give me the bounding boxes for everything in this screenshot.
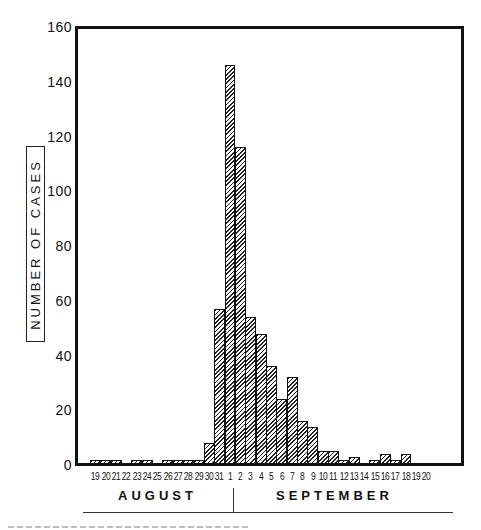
x-tick-label: 21 (111, 471, 121, 482)
month-underline (83, 512, 453, 513)
x-tick-label: 31 (214, 471, 224, 482)
x-tick-label: 5 (266, 471, 276, 482)
x-tick-label: 2 (235, 471, 245, 482)
bar (225, 65, 236, 465)
x-tick-label: 14 (359, 471, 369, 482)
bar (214, 309, 225, 465)
y-tick-label: 20 (38, 403, 72, 417)
x-tick-label: 30 (204, 471, 214, 482)
bar (297, 421, 308, 465)
x-tick-label: 6 (276, 471, 286, 482)
y-tick-label: 80 (38, 239, 72, 253)
bar (235, 147, 246, 465)
bar (256, 334, 267, 465)
x-tick-label: 17 (390, 471, 400, 482)
bar (266, 366, 277, 465)
x-tick-label: 29 (194, 471, 204, 482)
x-tick-label: 19 (411, 471, 421, 482)
bar (245, 317, 256, 465)
month-label-september: SEPTEMBER (276, 488, 393, 503)
month-label-august: AUGUST (118, 488, 197, 503)
y-tick-label: 140 (38, 75, 72, 89)
x-tick-label: 11 (328, 471, 338, 482)
figure-caption-cutoff (8, 524, 248, 530)
y-tick-label: 160 (38, 20, 72, 34)
bar (204, 443, 215, 465)
x-tick-label: 20 (421, 471, 431, 482)
x-tick-label: 8 (297, 471, 307, 482)
x-tick-label: 9 (307, 471, 317, 482)
month-divider (233, 488, 234, 512)
y-tick-label: 0 (38, 458, 72, 472)
x-tick-label: 20 (100, 471, 110, 482)
x-tick-label: 25 (152, 471, 162, 482)
x-tick-label: 13 (349, 471, 359, 482)
x-tick-label: 26 (163, 471, 173, 482)
x-tick-label: 10 (318, 471, 328, 482)
y-tick-label: 100 (38, 184, 72, 198)
x-tick-label: 22 (121, 471, 131, 482)
x-tick-label: 18 (401, 471, 411, 482)
x-axis-line (75, 463, 464, 466)
x-tick-label: 1 (225, 471, 235, 482)
x-tick-label: 16 (380, 471, 390, 482)
bar (307, 427, 318, 465)
bar (287, 377, 298, 465)
x-tick-label: 3 (245, 471, 255, 482)
x-tick-label: 24 (142, 471, 152, 482)
x-tick-label: 12 (338, 471, 348, 482)
x-tick-label: 7 (287, 471, 297, 482)
y-tick-label: 60 (38, 294, 72, 308)
x-tick-label: 28 (183, 471, 193, 482)
y-tick-label: 40 (38, 349, 72, 363)
bar (276, 399, 287, 465)
x-tick-label: 19 (90, 471, 100, 482)
x-tick-label: 4 (256, 471, 266, 482)
x-tick-label: 27 (173, 471, 183, 482)
y-tick-label: 120 (38, 130, 72, 144)
x-tick-label: 15 (370, 471, 380, 482)
x-tick-label: 23 (131, 471, 141, 482)
